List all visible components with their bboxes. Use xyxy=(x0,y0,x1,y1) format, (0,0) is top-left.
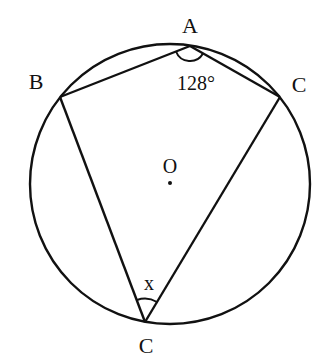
angle-label-a: 128° xyxy=(177,73,215,93)
point-label-b: B xyxy=(29,71,44,93)
point-label-c-upper: C xyxy=(292,74,307,96)
geometry-figure: A B C C O 128° x xyxy=(0,0,334,361)
angle-label-x: x xyxy=(144,273,154,293)
diagram-svg xyxy=(0,0,334,361)
segment-BA xyxy=(60,46,190,97)
segment-BC xyxy=(60,97,145,322)
point-label-c-lower: C xyxy=(139,335,154,357)
segment-CC xyxy=(145,97,280,322)
center-label-o: O xyxy=(163,156,177,176)
angle-arc-C xyxy=(137,299,157,302)
point-label-a: A xyxy=(182,15,198,37)
angle-arc-A xyxy=(176,52,203,62)
center-point xyxy=(168,181,172,185)
